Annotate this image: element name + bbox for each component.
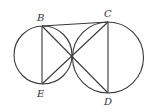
- label-c: C: [104, 8, 112, 19]
- label-b: B: [36, 12, 44, 23]
- geometry-figure: B C D E: [0, 0, 153, 112]
- segment-ce: [42, 22, 108, 84]
- label-d: D: [103, 96, 112, 107]
- segment-bc: [42, 22, 108, 26]
- left-circle: [14, 26, 72, 84]
- label-e: E: [36, 88, 45, 99]
